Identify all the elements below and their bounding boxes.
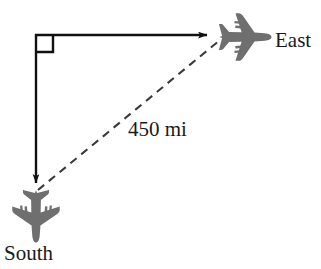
- label-distance: 450 mi: [128, 119, 187, 140]
- dashed-hypotenuse-icon: [38, 40, 220, 190]
- label-south: South: [4, 243, 53, 264]
- figure-canvas: East South 450 mi: [0, 0, 321, 269]
- airplane-icon-south: [12, 190, 59, 243]
- airplane-icon-east: [219, 13, 272, 60]
- right-angle-marker-icon: [36, 35, 53, 52]
- label-east: East: [275, 30, 311, 51]
